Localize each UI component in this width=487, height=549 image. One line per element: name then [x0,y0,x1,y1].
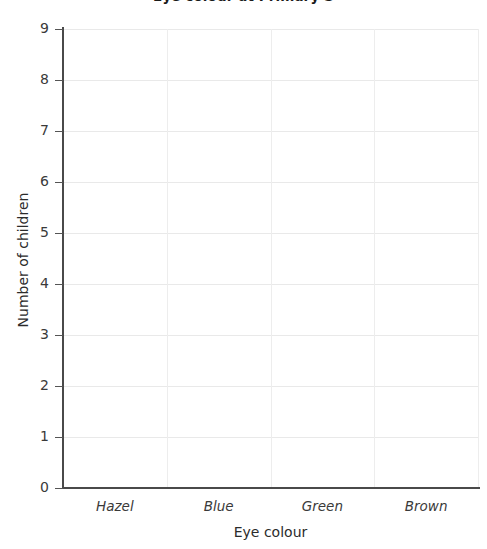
y-axis-tick-label: 6 [29,173,49,189]
x-axis-category-label: Hazel [55,498,175,514]
y-axis-tick-label-wrap: 0 [23,479,49,495]
y-axis-tick-label-wrap: 7 [23,122,49,138]
chart-title: Eye colour at Primary S [0,0,487,4]
gridline-vertical [167,29,168,488]
gridline-vertical [271,29,272,488]
y-axis-tick [55,437,63,438]
x-axis-category-label: Blue [159,498,279,514]
y-axis-tick [55,488,63,489]
y-axis-tick [55,233,63,234]
y-axis-tick-label: 9 [29,20,49,36]
y-axis-tick-label-wrap: 9 [23,20,49,36]
y-axis-tick [55,335,63,336]
x-axis-title: Eye colour [63,524,478,540]
y-axis-tick-label-wrap: 1 [23,428,49,444]
y-axis-tick-label-wrap: 8 [23,71,49,87]
y-axis-tick-label: 3 [29,326,49,342]
bar-chart-worksheet: Eye colour at Primary S 9876543210 Hazel… [0,0,487,549]
y-axis-tick-label-wrap: 2 [23,377,49,393]
y-axis-tick [55,80,63,81]
y-axis-tick-label: 7 [29,122,49,138]
y-axis-tick-label: 4 [29,275,49,291]
y-axis-tick [55,182,63,183]
y-axis-tick-label: 8 [29,71,49,87]
y-axis-tick-label: 1 [29,428,49,444]
y-axis-tick-label: 2 [29,377,49,393]
x-axis-category-label: Brown [366,498,486,514]
x-axis-category-label: Green [262,498,382,514]
gridline-vertical [374,29,375,488]
plot-area [63,29,478,488]
x-axis-line [62,487,480,489]
y-axis-tick [55,284,63,285]
y-axis-line [62,27,64,489]
y-axis-title: Number of children [15,160,31,360]
y-axis-tick-label: 0 [29,479,49,495]
y-axis-tick [55,29,63,30]
y-axis-tick [55,131,63,132]
y-axis-tick-label: 5 [29,224,49,240]
gridline-vertical [478,29,479,488]
y-axis-tick [55,386,63,387]
